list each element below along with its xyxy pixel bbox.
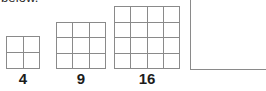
grid-cell — [73, 54, 89, 69]
grid-cell — [164, 54, 180, 70]
grid-cell — [57, 54, 73, 69]
grid-cell — [115, 23, 131, 39]
grid-cell — [164, 23, 180, 39]
square-grid-2x2 — [6, 36, 40, 69]
grid-cell — [7, 53, 24, 69]
grid-cell — [148, 7, 164, 23]
grid-cell — [148, 23, 164, 39]
grid-cell — [131, 38, 147, 54]
grid-cell — [24, 53, 41, 69]
square-numbers-figure: below. 4 9 16 — [0, 0, 266, 91]
grid-cell — [115, 7, 131, 23]
grid-cell — [73, 38, 89, 53]
caption-fragment-text: below. — [1, 0, 38, 4]
grid-cell — [115, 38, 131, 54]
grid-cell — [90, 38, 106, 53]
grid-cell — [73, 23, 89, 38]
grid-label-4: 4 — [6, 71, 40, 86]
grid-cell — [57, 38, 73, 53]
grid-cell — [7, 37, 24, 53]
grid-cell — [148, 38, 164, 54]
square-grid-3x3 — [56, 22, 106, 69]
square-grid-4x4 — [114, 6, 180, 69]
grid-cell — [131, 23, 147, 39]
grid-cell — [131, 54, 147, 70]
grid-cell — [164, 7, 180, 23]
partial-square-next-term — [190, 0, 266, 70]
grid-cell — [90, 54, 106, 69]
grid-cell — [90, 23, 106, 38]
grid-cell — [131, 7, 147, 23]
grid-label-9: 9 — [56, 71, 106, 86]
grid-cell — [115, 54, 131, 70]
grid-cell — [148, 54, 164, 70]
grid-cell — [57, 23, 73, 38]
grid-cell — [164, 38, 180, 54]
grid-cell — [24, 37, 41, 53]
grid-label-16: 16 — [114, 71, 180, 86]
